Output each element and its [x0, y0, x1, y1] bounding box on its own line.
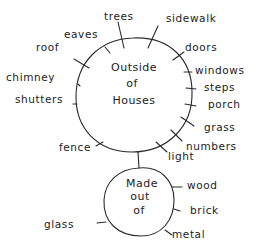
bubble-map-canvas: Outside of Houses Made out of trees side…	[0, 0, 264, 248]
branch-label: eaves	[64, 28, 98, 40]
main-branch-grass: grass	[181, 117, 235, 133]
branch-label: light	[168, 150, 194, 162]
branch-line	[186, 88, 196, 89]
branch-label: shutters	[15, 93, 63, 105]
main-branch-shutters: shutters	[15, 93, 77, 105]
sub-branch-wood: wood	[172, 179, 218, 191]
main-branch-porch: porch	[185, 98, 241, 110]
branch-label: chimney	[6, 71, 55, 83]
branch-line	[105, 47, 110, 53]
main-branch-doors: doors	[173, 41, 217, 60]
branch-label: glass	[44, 218, 74, 230]
branch-label: grass	[204, 121, 235, 133]
branch-label: sidewalk	[166, 12, 217, 24]
branch-line	[78, 84, 80, 86]
main-topic-line-2: of	[126, 77, 138, 90]
branch-line	[174, 209, 180, 211]
branch-label: doors	[185, 41, 217, 53]
branch-label: metal	[172, 228, 205, 240]
branch-line	[118, 22, 124, 48]
main-branch-windows: windows	[184, 64, 245, 76]
main-branch-steps: steps	[186, 81, 235, 93]
sub-branch-brick: brick	[174, 204, 219, 216]
branch-label: porch	[208, 98, 241, 110]
branch-label: steps	[204, 81, 235, 93]
main-branch-fence: fence	[59, 141, 103, 153]
main-topic-line-3: Houses	[112, 94, 155, 107]
branch-label: windows	[195, 64, 245, 76]
branch-label: roof	[36, 41, 59, 53]
sub-topic-line-1: Made	[126, 177, 158, 190]
branch-line	[165, 230, 172, 235]
main-branch-chimney: chimney	[6, 71, 80, 86]
topic-connector-line	[138, 152, 139, 168]
main-branch-numbers: numbers	[171, 130, 237, 152]
branch-label: wood	[187, 179, 218, 191]
sub-topic-line-3: of	[133, 204, 145, 217]
main-topic-line-1: Outside	[111, 61, 157, 74]
sub-branch-glass: glass	[44, 218, 106, 230]
main-topic-node: Outside of Houses	[76, 38, 192, 152]
branch-label: trees	[104, 10, 134, 22]
sub-topic-node: Made out of	[104, 168, 174, 236]
branch-line	[171, 130, 182, 141]
main-branch-roof: roof	[36, 41, 89, 68]
branch-line	[148, 26, 158, 48]
branch-label: brick	[190, 204, 219, 216]
sub-topic-line-2: out	[130, 190, 150, 203]
sub-branch-metal: metal	[165, 228, 205, 240]
branch-line	[97, 222, 106, 223]
branch-label: fence	[59, 141, 91, 153]
main-branch-trees: trees	[104, 10, 134, 48]
main-branch-eaves: eaves	[64, 28, 110, 53]
